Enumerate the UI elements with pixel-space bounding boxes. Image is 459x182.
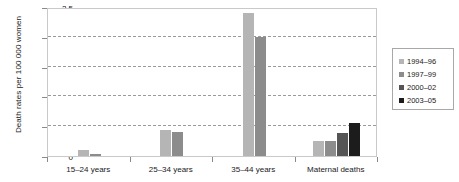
bar-chart: Death rates per 100 000 women 00.511.522… bbox=[0, 0, 459, 182]
y-axis-title: Death rates per 100 000 women bbox=[14, 0, 23, 155]
legend-swatch-icon bbox=[399, 72, 404, 77]
legend-label: 1994–96 bbox=[407, 57, 436, 66]
bar bbox=[78, 150, 89, 156]
bar-group bbox=[213, 9, 296, 156]
legend-label: 1997–99 bbox=[407, 70, 436, 79]
legend-label: 2000–02 bbox=[407, 83, 436, 92]
plot-area bbox=[47, 8, 377, 157]
legend-item[interactable]: 2003–05 bbox=[399, 94, 453, 107]
x-axis-tick-mark bbox=[212, 157, 213, 162]
bar bbox=[349, 123, 360, 156]
bar bbox=[90, 154, 101, 156]
legend-swatch-icon bbox=[399, 85, 404, 90]
bar bbox=[160, 130, 171, 156]
bar-group bbox=[131, 9, 214, 156]
x-axis-tick-mark bbox=[295, 157, 296, 162]
legend-label: 2003–05 bbox=[407, 96, 436, 105]
legend-item[interactable]: 1997–99 bbox=[399, 68, 453, 81]
x-axis-tick-mark bbox=[47, 157, 48, 162]
bar bbox=[325, 141, 336, 156]
legend-item[interactable]: 1994–96 bbox=[399, 55, 453, 68]
legend-swatch-icon bbox=[399, 98, 404, 103]
bar bbox=[337, 133, 348, 156]
legend-item[interactable]: 2000–02 bbox=[399, 81, 453, 94]
bar bbox=[255, 37, 266, 156]
x-axis-tick-mark bbox=[377, 157, 378, 162]
bar bbox=[172, 132, 183, 156]
bar-group bbox=[48, 9, 131, 156]
bar bbox=[243, 13, 254, 156]
legend: 1994–961997–992000–022003–05 bbox=[392, 48, 454, 110]
bar bbox=[313, 141, 324, 156]
legend-swatch-icon bbox=[399, 59, 404, 64]
x-axis-tick-mark bbox=[130, 157, 131, 162]
bar-group bbox=[296, 9, 379, 156]
x-axis-tick-label: Maternal deaths bbox=[281, 165, 391, 174]
